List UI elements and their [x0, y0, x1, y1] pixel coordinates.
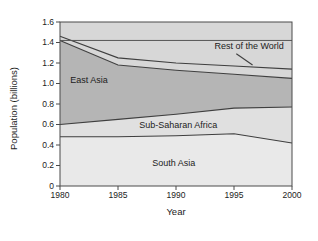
x-axis-title: Year — [146, 206, 206, 217]
x-tick-label: 2000 — [277, 191, 307, 200]
x-tick-label: 1990 — [161, 191, 191, 200]
x-tick-label: 1980 — [45, 191, 75, 200]
y-tick-label: 0.6 — [34, 120, 54, 129]
y-tick-label: 1.0 — [34, 79, 54, 88]
y-tick-label: 1.2 — [34, 59, 54, 68]
y-axis-title: Population (billions) — [8, 59, 19, 159]
x-tick-label: 1985 — [103, 191, 133, 200]
band-label-sub-saharan-africa: Sub-Saharan Africa — [139, 120, 217, 130]
y-tick-label: 0.8 — [34, 100, 54, 109]
band-label-south-asia: South Asia — [152, 158, 195, 168]
population-by-region-chart: Population (billions) Year 00.20.40.60.8… — [0, 0, 318, 241]
y-tick-label: 0.2 — [34, 161, 54, 170]
band-label-east-asia: East Asia — [70, 75, 108, 85]
y-tick-label: 0.4 — [34, 141, 54, 150]
band-label-rest-of-the-world: Rest of the World — [214, 41, 283, 51]
y-tick-label: 1.6 — [34, 18, 54, 27]
x-tick-label: 1995 — [219, 191, 249, 200]
y-tick-label: 1.4 — [34, 38, 54, 47]
